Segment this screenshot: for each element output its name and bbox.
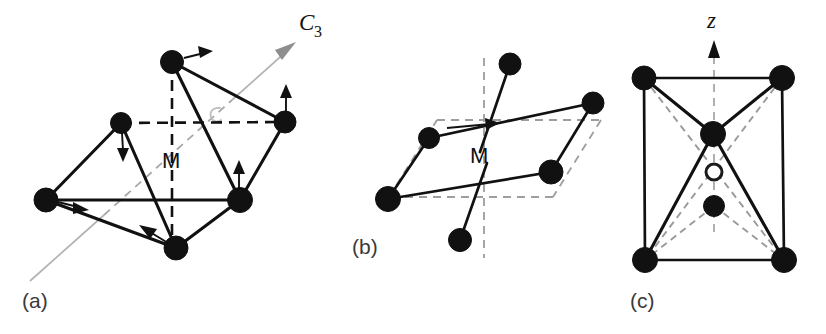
atom-c-center-lower [704, 196, 725, 217]
figure-root: M C 3 (a) [0, 0, 826, 334]
atom-c-corner-top-right [770, 66, 795, 91]
atom-c-open-site [706, 164, 722, 180]
atom-a-top [161, 51, 184, 74]
atom-c-center-upper [701, 122, 726, 147]
atom-b-plane-upper-right [582, 92, 604, 114]
atom-c-corner-bottom-left [633, 248, 658, 273]
panel-a-metal-label: M [162, 148, 180, 173]
atom-c-corner-bottom-right [772, 248, 797, 273]
atom-b-axial-top [499, 53, 521, 75]
atom-b-axial-bottom [449, 229, 472, 252]
atom-b-plane-lower-left [376, 187, 401, 212]
atom-a-upper-right [274, 111, 296, 133]
atom-c-corner-top-left [632, 66, 656, 90]
panel-b-label: (b) [352, 235, 378, 258]
c3-axis-label-letter: C [299, 10, 315, 35]
c3-axis-label-subscript: 3 [314, 23, 322, 40]
figure-background [0, 0, 826, 334]
panel-b-metal-label: M [470, 143, 488, 168]
z-axis-label: z [706, 8, 716, 33]
atom-a-right [228, 188, 253, 213]
atom-b-plane-upper-left [419, 128, 440, 149]
atom-a-bottom [164, 236, 188, 260]
molecular-distortion-figure: M C 3 (a) [0, 0, 826, 334]
panel-c-label: (c) [630, 289, 655, 312]
atom-a-upper-left [111, 113, 132, 134]
atom-a-left [34, 188, 58, 212]
panel-a-label: (a) [22, 289, 48, 312]
atom-b-plane-lower-right [539, 160, 563, 184]
